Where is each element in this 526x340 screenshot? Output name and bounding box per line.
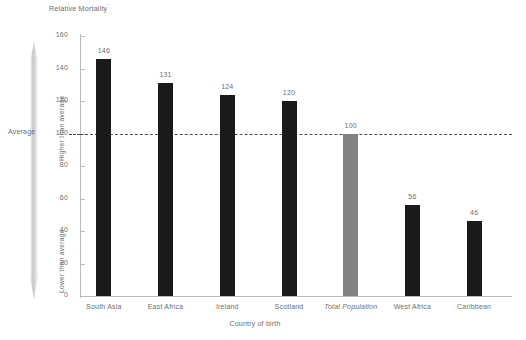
bar-south-asia[interactable]: 146 — [96, 59, 111, 296]
y-tick-label: 60 — [60, 194, 68, 201]
y-tick-label: 40 — [60, 226, 68, 233]
y-tick-mark — [80, 101, 85, 102]
chart-title-footnote: ' — [107, 3, 108, 9]
y-tick-label: 160 — [56, 31, 68, 38]
x-label-caribbean: Caribbean — [457, 303, 491, 310]
bar-caribbean[interactable]: 46 — [467, 221, 482, 296]
bar-value-label: 100 — [345, 122, 357, 129]
y-tick-label: 0 — [64, 291, 68, 298]
average-reference-line-stub — [69, 134, 80, 135]
average-reference-label: Average — [8, 128, 35, 135]
y-tick-label: 140 — [56, 64, 68, 71]
x-label-west-africa: West Africa — [394, 303, 431, 310]
y-tick-label: 100 — [56, 129, 68, 136]
bar-rect — [282, 101, 297, 296]
plot-area: 020406080100120140160 146131124120100564… — [80, 36, 512, 296]
bar-total-population[interactable]: 100 — [343, 134, 358, 297]
y-tick-label: 120 — [56, 96, 68, 103]
bar-rect — [96, 59, 111, 296]
direction-arrow: Higher than average Lower than average — [20, 38, 50, 302]
y-tick-mark — [80, 166, 85, 167]
y-tick-mark — [80, 69, 85, 70]
bar-value-label: 56 — [408, 193, 416, 200]
y-tick-label: 20 — [60, 259, 68, 266]
chart-title: Relative Mortality' — [49, 3, 109, 13]
bar-rect — [220, 95, 235, 297]
bar-value-label: 124 — [221, 83, 233, 90]
bar-rect — [405, 205, 420, 296]
bar-value-label: 146 — [98, 47, 110, 54]
y-tick-mark — [80, 231, 85, 232]
bar-value-label: 120 — [283, 89, 295, 96]
y-tick-mark — [80, 296, 85, 297]
direction-arrow-graphic — [20, 38, 50, 302]
bar-east-africa[interactable]: 131 — [158, 83, 173, 296]
bar-rect — [467, 221, 482, 296]
x-axis-line — [80, 296, 512, 297]
bar-ireland[interactable]: 124 — [220, 95, 235, 297]
bar-rect — [158, 83, 173, 296]
x-label-ireland: Ireland — [216, 303, 239, 310]
bar-scotland[interactable]: 120 — [282, 101, 297, 296]
x-label-scotland: Scotland — [275, 303, 304, 310]
y-tick-mark — [80, 199, 85, 200]
y-tick-mark — [80, 264, 85, 265]
bar-rect — [343, 134, 358, 297]
bar-value-label: 131 — [159, 71, 171, 78]
y-tick-mark — [80, 36, 85, 37]
x-label-east-africa: East Africa — [148, 303, 184, 310]
bar-west-africa[interactable]: 56 — [405, 205, 420, 296]
relative-mortality-chart: Relative Mortality' — [0, 0, 526, 340]
x-label-total-population: Total Population — [324, 303, 377, 310]
y-tick-label: 80 — [60, 161, 68, 168]
bar-value-label: 46 — [470, 209, 478, 216]
x-axis-title: Country of birth — [229, 320, 280, 327]
chart-title-text: Relative Mortality — [49, 4, 107, 13]
x-label-south-asia: South Asia — [86, 303, 121, 310]
